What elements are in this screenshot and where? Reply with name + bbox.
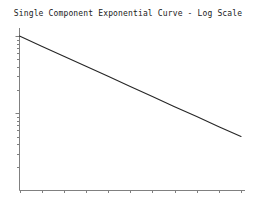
plot-area (0, 0, 256, 211)
data-series-line (20, 36, 242, 136)
chart-figure: Single Component Exponential Curve - Log… (0, 0, 256, 211)
y-axis-tick-marks (16, 37, 20, 168)
